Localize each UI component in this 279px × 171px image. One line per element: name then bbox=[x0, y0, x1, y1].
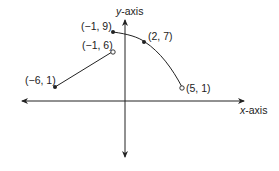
label-neg1-6: (−1, 6) bbox=[82, 39, 113, 51]
label-neg1-9: (−1, 9) bbox=[81, 20, 112, 32]
piecewise-graph: y-axis x-axis (−6, 1) (−1, 6) (−1, 9) (2… bbox=[0, 0, 279, 171]
label-5-1: (5, 1) bbox=[186, 82, 211, 94]
line-segment bbox=[55, 52, 112, 87]
y-axis-label: y-axis bbox=[115, 5, 143, 17]
label-2-7: (2, 7) bbox=[148, 30, 173, 42]
point-2-7 bbox=[142, 40, 146, 44]
point-5-1-open bbox=[180, 86, 184, 90]
x-axis-label: x-axis bbox=[239, 104, 267, 116]
label-neg6-1: (−6, 1) bbox=[25, 74, 56, 86]
